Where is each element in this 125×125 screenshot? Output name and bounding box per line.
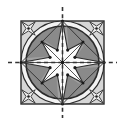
star-vertex-dot [56, 48, 59, 51]
star-vertex-dot [48, 56, 51, 59]
star-tip-dot [20, 61, 23, 64]
star-tip-dot [82, 82, 85, 85]
figure-root [0, 0, 125, 125]
corner-star-center-dot [27, 95, 30, 98]
geometric-figure [0, 0, 125, 125]
star-vertex-dot [66, 48, 69, 51]
star-vertex-dot [73, 66, 76, 69]
star-vertex-dot [73, 56, 76, 59]
corner-star-center-dot [95, 95, 98, 98]
star-vertex-dot [66, 73, 69, 76]
star-tip-dot [40, 40, 43, 43]
star-tip-dot [82, 40, 85, 43]
corner-star-center-dot [95, 27, 98, 30]
star-tip-dot [40, 82, 43, 85]
star-vertex-dot [48, 66, 51, 69]
center-point [61, 61, 65, 65]
corner-star-center-dot [27, 27, 30, 30]
star-vertex-dot [56, 73, 59, 76]
